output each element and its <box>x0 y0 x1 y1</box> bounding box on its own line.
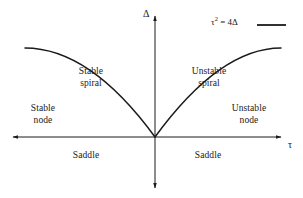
region-label-stable-spiral: Stable spiral <box>62 66 120 89</box>
region-label-saddle-left: Saddle <box>56 150 116 161</box>
plot-canvas <box>0 0 303 198</box>
region-label-line1: Saddle <box>178 150 238 161</box>
region-label-line2: node <box>14 115 72 127</box>
region-label-line2: spiral <box>178 78 240 90</box>
region-label-unstable-spiral: Unstable spiral <box>178 66 240 89</box>
region-label-line1: Stable <box>14 103 72 115</box>
region-label-unstable-node: Unstable node <box>218 103 280 126</box>
region-label-line1: Unstable <box>218 103 280 115</box>
region-label-line1: Saddle <box>56 150 116 161</box>
region-label-stable-node: Stable node <box>14 103 72 126</box>
trace-determinant-diagram: Δ τ τ2 = 4Δ Stable spiral Unstable spira… <box>0 0 303 198</box>
region-label-saddle-right: Saddle <box>178 150 238 161</box>
region-label-line2: spiral <box>62 78 120 90</box>
region-label-line1: Unstable <box>178 66 240 78</box>
legend-formula-rest: = 4Δ <box>218 17 238 27</box>
delta-axis-label: Δ <box>143 8 149 19</box>
region-label-line1: Stable <box>62 66 120 78</box>
tau-axis-label: τ <box>288 139 292 150</box>
legend-formula: τ2 = 4Δ <box>211 17 238 27</box>
region-label-line2: node <box>218 115 280 127</box>
